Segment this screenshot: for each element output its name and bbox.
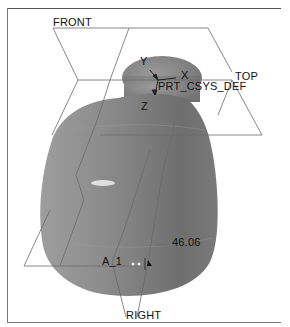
dimension-value[interactable]: 46.06 bbox=[172, 237, 201, 248]
specular-highlight bbox=[91, 180, 115, 186]
model-scene[interactable] bbox=[0, 0, 290, 327]
csys-name-label[interactable]: PRT_CSYS_DEF bbox=[158, 81, 246, 92]
csys-axis-y-label: Y bbox=[140, 56, 148, 67]
bottle-body[interactable] bbox=[40, 94, 217, 296]
axis-label-a1[interactable]: A_1 bbox=[102, 256, 122, 267]
model-viewport[interactable]: FRONT TOP RIGHT Y X Z PRT_CSYS_DEF A_1 4… bbox=[0, 0, 290, 327]
datum-label-right[interactable]: RIGHT bbox=[126, 310, 161, 321]
csys-axis-z-label: Z bbox=[141, 101, 148, 112]
datum-label-front[interactable]: FRONT bbox=[53, 17, 92, 28]
